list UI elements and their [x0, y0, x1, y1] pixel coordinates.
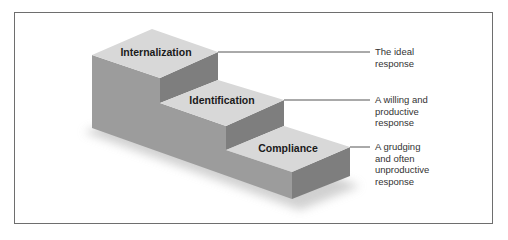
step-label-identification: Identification [189, 94, 254, 106]
step-label-compliance: Compliance [258, 142, 318, 154]
description-line: The ideal [375, 46, 455, 58]
description-line: response [375, 58, 455, 70]
description-line: response [375, 117, 455, 129]
description-line: response [375, 176, 455, 188]
description-identification: A willing and productive response [375, 94, 455, 129]
description-line: unproductive [375, 164, 455, 176]
description-compliance: A grudging and often unproductive respon… [375, 141, 455, 187]
step-label-internalization: Internalization [120, 46, 191, 58]
description-line: and often [375, 153, 455, 165]
description-line: productive [375, 106, 455, 118]
description-line: A grudging [375, 141, 455, 153]
description-internalization: The ideal response [375, 46, 455, 69]
description-line: A willing and [375, 94, 455, 106]
